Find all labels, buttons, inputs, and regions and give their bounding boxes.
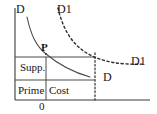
label-point-p: P [41,42,48,53]
label-supp: Supp. [20,62,45,73]
label-d1-top: D1 [57,3,72,15]
label-d-curve: D [103,71,112,83]
economics-diagram: D D1 D1 D P Supp. Prime Cost 0 [0,0,157,114]
label-d-axis: D [16,3,25,15]
label-cost: Cost [49,85,69,96]
label-origin: 0 [39,101,45,112]
label-prime: Prime [18,85,44,96]
point-p-marker [45,53,47,55]
label-d1-right: D1 [131,55,146,67]
